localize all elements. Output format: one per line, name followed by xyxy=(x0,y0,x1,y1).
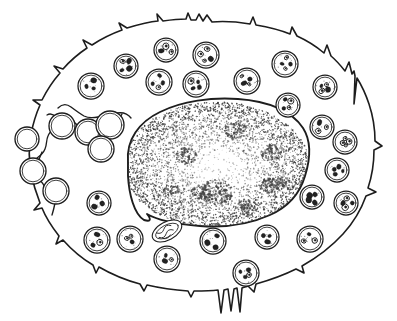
granule xyxy=(255,225,279,249)
granule xyxy=(276,93,300,117)
granule xyxy=(84,227,110,253)
granule xyxy=(87,191,111,215)
granule xyxy=(300,185,324,209)
granule xyxy=(117,226,143,252)
granule xyxy=(334,191,358,215)
granule xyxy=(78,73,104,99)
bacterium xyxy=(88,136,114,162)
granule xyxy=(114,54,138,78)
nucleus xyxy=(122,99,309,229)
granule xyxy=(200,228,226,254)
granule xyxy=(154,38,178,62)
granule xyxy=(234,68,260,94)
granule xyxy=(333,130,357,154)
granule xyxy=(325,158,349,182)
cell-diagram-canvas: White blood cell (phagocyte) cross-secti… xyxy=(0,0,397,321)
granule xyxy=(146,69,172,95)
granule xyxy=(272,51,298,77)
bacterium xyxy=(15,127,39,151)
granule xyxy=(233,260,259,286)
cell-illustration xyxy=(0,0,397,321)
bacterium xyxy=(20,158,46,184)
granule xyxy=(154,246,180,272)
granule xyxy=(313,75,337,99)
granule xyxy=(310,115,334,139)
bacterium xyxy=(49,113,75,139)
bacterium xyxy=(43,178,69,204)
granule xyxy=(297,226,323,252)
granule xyxy=(193,42,219,68)
bacterium xyxy=(96,111,124,139)
granule xyxy=(183,71,209,97)
